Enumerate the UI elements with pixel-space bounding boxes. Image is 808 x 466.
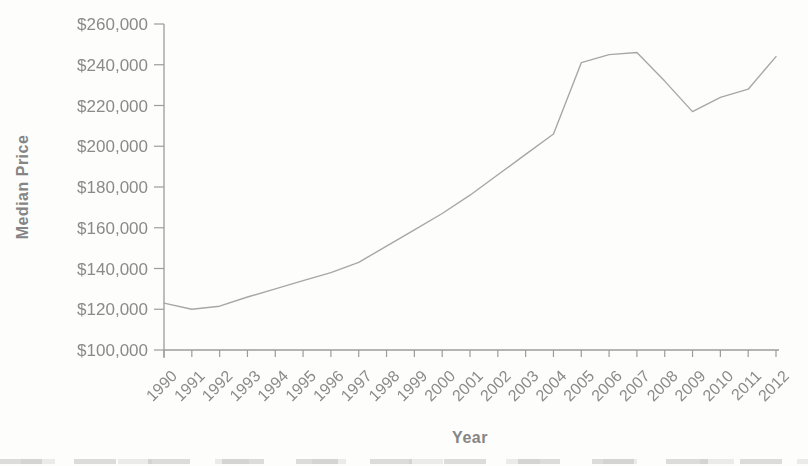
y-tick-label: $260,000 — [77, 15, 148, 34]
x-tick-label: 1991 — [171, 367, 208, 404]
y-tick-label: $240,000 — [77, 56, 148, 75]
scan-artifact — [0, 459, 808, 464]
y-tick-label: $220,000 — [77, 97, 148, 116]
x-tick-label: 2002 — [477, 367, 514, 404]
x-tick-label: 2011 — [728, 367, 764, 403]
x-tick-label: 2001 — [449, 367, 486, 404]
y-tick-label: $180,000 — [77, 178, 148, 197]
x-tick-label: 2009 — [671, 367, 708, 404]
x-tick-label: 2005 — [560, 367, 597, 404]
x-tick-label: 1992 — [199, 367, 236, 404]
x-tick-label: 2007 — [616, 367, 653, 404]
y-tick-label: $140,000 — [77, 260, 148, 279]
x-tick-label: 1997 — [338, 367, 375, 404]
x-tick-label: 1994 — [254, 367, 291, 404]
x-tick-label: 2000 — [421, 367, 458, 404]
x-tick-label: 2006 — [588, 367, 625, 404]
y-tick-label: $160,000 — [77, 219, 148, 238]
x-tick-label: 1995 — [282, 367, 319, 404]
x-tick-label: 1993 — [226, 367, 263, 404]
x-tick-label: 1990 — [143, 367, 180, 404]
chart-figure: $100,000$120,000$140,000$160,000$180,000… — [0, 0, 808, 466]
x-tick-label: 2010 — [699, 367, 736, 404]
x-tick-label: 1999 — [393, 367, 430, 404]
x-tick-label: 2012 — [755, 367, 792, 404]
y-tick-label: $120,000 — [77, 300, 148, 319]
y-tick-label: $100,000 — [77, 341, 148, 360]
x-axis-title: Year — [452, 429, 488, 447]
x-tick-label: 2003 — [505, 367, 542, 404]
y-axis-title: Median Price — [14, 135, 32, 240]
line-chart-svg: $100,000$120,000$140,000$160,000$180,000… — [0, 0, 808, 466]
x-tick-label: 2008 — [644, 367, 681, 404]
y-tick-label: $200,000 — [77, 137, 148, 156]
x-tick-label: 2004 — [532, 367, 569, 404]
x-tick-label: 1998 — [365, 367, 402, 404]
x-tick-label: 1996 — [310, 367, 347, 404]
price-line — [164, 53, 776, 310]
